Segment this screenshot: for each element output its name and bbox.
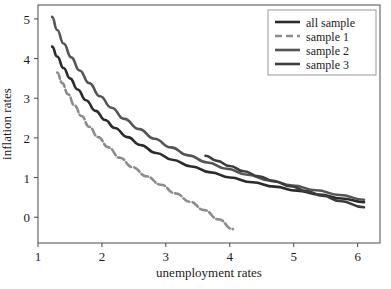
- y-tick-label: 0: [24, 210, 31, 225]
- x-axis-label: unemployment rates: [156, 265, 262, 280]
- legend-label-all-sample: all sample: [306, 16, 355, 30]
- x-tick-label: 4: [227, 249, 234, 264]
- y-tick-label: 4: [24, 52, 31, 67]
- legend-label-sample-1: sample 1: [306, 30, 349, 44]
- y-tick-label: 3: [24, 91, 31, 106]
- y-tick-label: 2: [24, 131, 31, 146]
- figure-caption: [0, 281, 391, 289]
- y-axis-label: inflation rates: [0, 88, 14, 160]
- legend-label-sample-3: sample 3: [306, 58, 349, 72]
- x-tick-label: 1: [35, 249, 42, 264]
- x-tick-label: 5: [290, 249, 297, 264]
- x-tick-label: 3: [163, 249, 170, 264]
- x-tick-label: 6: [354, 249, 361, 264]
- y-tick-label: 5: [24, 12, 31, 27]
- plot-canvas: 123456012345unemployment ratesinflation …: [0, 0, 391, 289]
- x-tick-label: 2: [99, 249, 106, 264]
- y-tick-label: 1: [24, 171, 31, 186]
- chart-figure: 123456012345unemployment ratesinflation …: [0, 0, 391, 289]
- legend-label-sample-2: sample 2: [306, 44, 349, 58]
